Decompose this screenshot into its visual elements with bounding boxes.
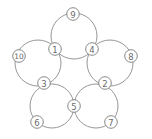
node-label: 8: [128, 52, 133, 62]
nodes: 9 1 4 10 8 3 2 5: [13, 8, 138, 129]
node-6: 6: [31, 116, 44, 129]
node-2: 2: [99, 77, 112, 90]
node-label: 1: [52, 45, 57, 55]
node-label: 2: [102, 79, 107, 89]
node-7: 7: [105, 116, 118, 129]
node-label: 4: [89, 45, 94, 55]
node-label: 3: [41, 79, 46, 89]
node-label: 10: [14, 52, 24, 61]
node-5: 5: [68, 100, 81, 113]
node-4: 4: [86, 43, 99, 56]
node-label: 9: [70, 10, 75, 20]
node-9: 9: [67, 8, 80, 21]
node-label: 5: [71, 102, 76, 112]
node-8: 8: [125, 50, 138, 63]
node-3: 3: [38, 77, 51, 90]
node-label: 7: [108, 118, 113, 128]
node-label: 6: [34, 118, 39, 128]
node-1: 1: [49, 43, 62, 56]
five-circle-diagram: 9 1 4 10 8 3 2 5: [0, 0, 152, 139]
node-10: 10: [13, 50, 26, 63]
